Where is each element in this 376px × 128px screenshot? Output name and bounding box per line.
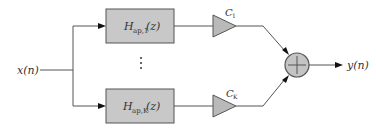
summing-junction [285, 53, 309, 77]
wire-gain-k-to-summer [236, 79, 285, 106]
gain-1-subscript: 1 [232, 12, 236, 19]
filter-block-k: H ap,K (z) [106, 89, 174, 123]
output-label: y(n) [346, 59, 369, 72]
filter-k-arg: (z) [146, 100, 160, 113]
gain-k-subscript: K [233, 93, 238, 100]
ellipsis-dots [140, 57, 142, 69]
filter-1-arg: (z) [146, 20, 160, 33]
gain-block-k: C K [213, 88, 238, 117]
input-label: x(n) [17, 64, 39, 77]
gain-block-1: C 1 [213, 7, 236, 37]
wire-gain-1-to-summer [236, 26, 285, 51]
filter-bank-diagram: x(n) H ap,1 (z) H ap,K (z) C 1 C K [0, 0, 376, 128]
arrow-icon [335, 62, 343, 68]
arrow-icon [98, 103, 106, 109]
filter-block-1: H ap,1 (z) [106, 9, 174, 43]
arrow-icon [98, 23, 106, 29]
